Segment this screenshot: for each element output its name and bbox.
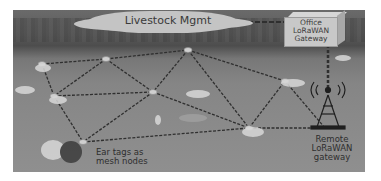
office-line3: Gateway bbox=[284, 35, 338, 43]
cow-icons bbox=[15, 55, 351, 163]
cloud-label: Livestock Mgmt bbox=[108, 14, 228, 27]
ear-line2: mesh nodes bbox=[96, 157, 168, 166]
office-gateway-label: Office LoRaWAN Gateway bbox=[284, 19, 338, 43]
remote-gateway-label: Remote LoRaWAN gateway bbox=[302, 135, 362, 162]
office-box-side bbox=[337, 10, 345, 46]
remote-line3: gateway bbox=[302, 153, 362, 162]
radio-tower-icon bbox=[311, 82, 345, 129]
ear-tags-label: Ear tags as mesh nodes bbox=[96, 148, 168, 166]
